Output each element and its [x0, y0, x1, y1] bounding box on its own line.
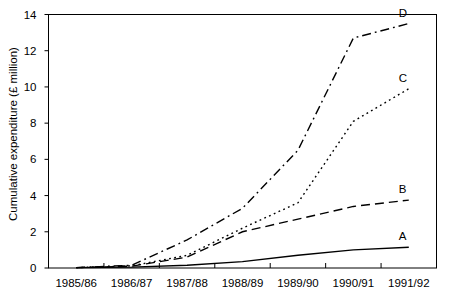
y-axis-tick-label: 2: [11, 226, 37, 238]
x-axis-tick-label: 1989/90: [268, 277, 328, 290]
y-axis-ticks: [45, 15, 49, 269]
y-axis-tick-label: 14: [11, 9, 37, 21]
series-line-a: [76, 247, 409, 267]
x-axis-tick-label: 1986/87: [102, 277, 162, 290]
y-axis-tick-label: 8: [11, 117, 37, 129]
x-axis-tick-label: 1985/86: [46, 277, 106, 290]
series-line-c: [76, 89, 409, 268]
x-axis-tick-label: 1991/92: [379, 277, 439, 290]
series-line-b: [76, 200, 409, 268]
series-lines: [76, 24, 409, 268]
plot-area: [0, 0, 452, 302]
x-axis-tick-label: 1990/91: [323, 277, 383, 290]
series-label-b: B: [399, 183, 407, 195]
y-axis-tick-label: 0: [11, 262, 37, 274]
chart-container: Cumulative expenditure (£ million) 02468…: [0, 0, 452, 302]
x-axis-tick-label: 1988/89: [213, 277, 273, 290]
y-axis-tick-label: 12: [11, 45, 37, 57]
plot-frame: [49, 15, 437, 269]
x-axis-tick-label: 1987/88: [157, 277, 217, 290]
series-label-a: A: [399, 230, 407, 242]
series-line-d: [76, 24, 409, 268]
series-label-d: D: [399, 7, 407, 19]
y-axis-tick-label: 10: [11, 81, 37, 93]
plot-frame-rect: [49, 15, 437, 269]
series-label-c: C: [399, 72, 407, 84]
y-axis-tick-label: 4: [11, 190, 37, 202]
y-axis-tick-label: 6: [11, 153, 37, 165]
